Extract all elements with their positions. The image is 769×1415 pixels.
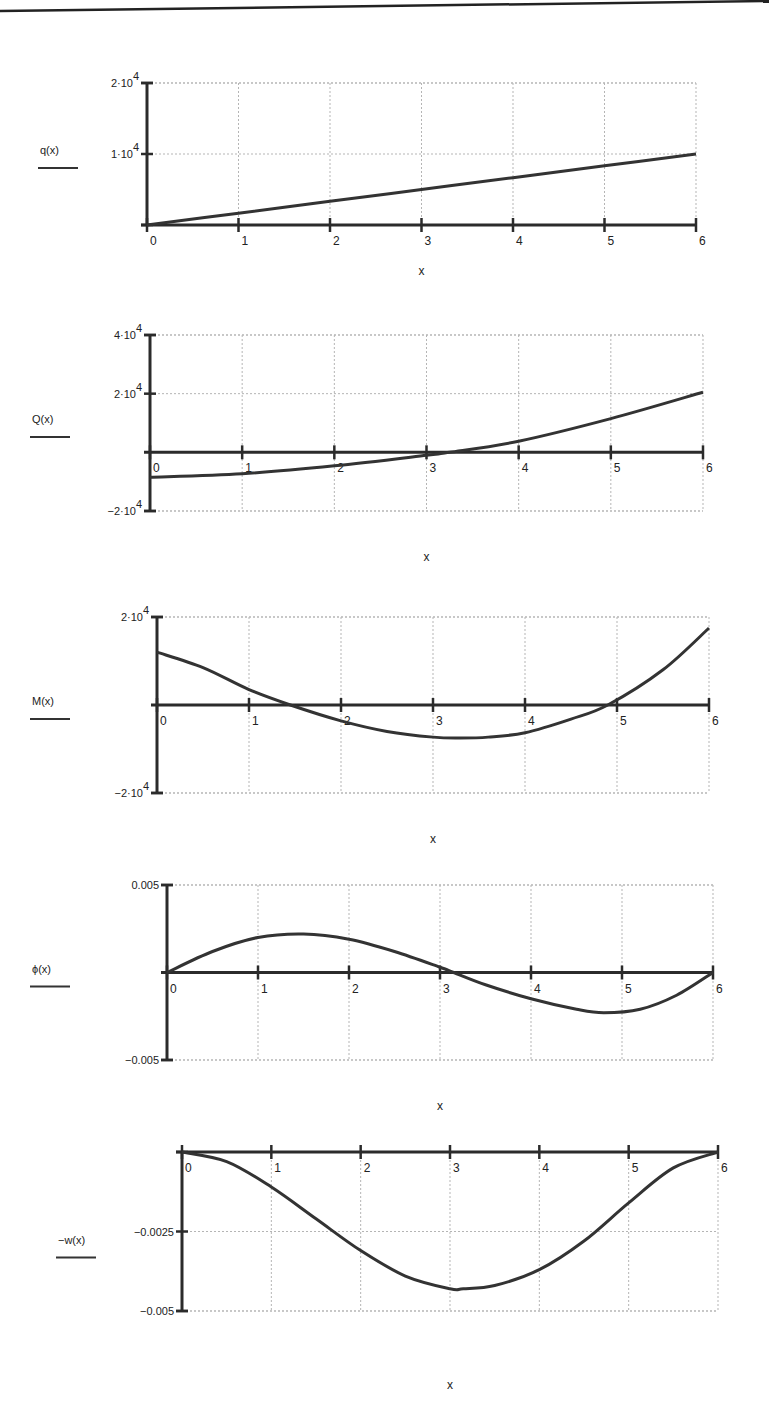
function-label: q(x) xyxy=(40,144,59,156)
x-tick-label: 4 xyxy=(516,234,523,248)
y-tick-exponent: 4 xyxy=(136,322,142,334)
x-tick-label: 3 xyxy=(430,461,437,475)
x-tick-label: 1 xyxy=(274,1161,281,1175)
function-label: −w(x) xyxy=(58,1234,85,1246)
x-tick-label: 4 xyxy=(522,461,529,475)
x-tick-label: 1 xyxy=(242,234,249,248)
y-tick-exponent: 4 xyxy=(136,381,142,393)
x-axis-label: x xyxy=(447,1378,453,1392)
x-tick-label: 2 xyxy=(364,1161,371,1175)
plots-svg: 01234562·1041·104q(x)x01234564·1042·104−… xyxy=(0,0,769,1415)
chart-phi: 01234560.005−0.005ϕ(x)x xyxy=(30,879,723,1113)
x-tick-label: 3 xyxy=(453,1161,460,1175)
y-tick-exponent: 4 xyxy=(143,604,149,616)
function-label: ϕ(x) xyxy=(32,963,51,975)
x-tick-label: 0 xyxy=(150,234,157,248)
x-tick-label: 0 xyxy=(153,461,160,475)
y-tick-label: −0.005 xyxy=(140,1305,174,1317)
y-tick-exponent: 4 xyxy=(136,498,142,510)
x-tick-label: 2 xyxy=(352,982,359,996)
y-tick-label: 4·10 xyxy=(114,329,136,341)
x-tick-label: 4 xyxy=(528,714,535,728)
function-label: Q(x) xyxy=(32,413,53,425)
x-tick-label: 6 xyxy=(721,1161,728,1175)
x-tick-label: 3 xyxy=(425,234,432,248)
x-tick-label: 3 xyxy=(436,714,443,728)
x-axis-label: x xyxy=(419,264,425,278)
grid xyxy=(150,335,703,511)
chart-w: 0123456−0.0025−0.005−w(x)x xyxy=(56,1145,728,1392)
grid xyxy=(147,83,696,225)
x-axis-label: x xyxy=(424,550,430,564)
x-tick-label: 5 xyxy=(620,714,627,728)
x-tick-label: 6 xyxy=(699,234,706,248)
chart-q: 01234562·1041·104q(x)x xyxy=(38,70,706,278)
y-tick-label: 0.005 xyxy=(131,879,159,891)
x-tick-label: 0 xyxy=(160,714,167,728)
x-tick-label: 3 xyxy=(443,982,450,996)
x-tick-label: 4 xyxy=(542,1161,549,1175)
y-tick-exponent: 4 xyxy=(143,780,149,792)
x-tick-label: 1 xyxy=(252,714,259,728)
grid xyxy=(182,1152,718,1311)
x-tick-label: 5 xyxy=(614,461,621,475)
x-axis-label: x xyxy=(437,1099,443,1113)
x-tick-label: 4 xyxy=(534,982,541,996)
x-tick-label: 5 xyxy=(632,1161,639,1175)
x-tick-label: 0 xyxy=(170,982,177,996)
x-tick-label: 0 xyxy=(185,1161,192,1175)
x-axis-label: x xyxy=(430,832,436,846)
y-tick-label: 2·10 xyxy=(121,611,143,623)
x-tick-label: 2 xyxy=(333,234,340,248)
y-tick-exponent: 4 xyxy=(133,141,139,153)
y-tick-label: 1·10 xyxy=(111,148,133,160)
x-tick-label: 1 xyxy=(261,982,268,996)
x-tick-label: 5 xyxy=(608,234,615,248)
y-tick-exponent: 4 xyxy=(133,70,139,82)
y-tick-label: −2·10 xyxy=(108,505,136,517)
chart-M: 01234562·104−2·104M(x)x xyxy=(30,604,719,846)
x-tick-label: 6 xyxy=(716,982,723,996)
function-label: M(x) xyxy=(32,695,54,707)
y-tick-label: −0.0025 xyxy=(134,1226,174,1238)
x-tick-label: 5 xyxy=(625,982,632,996)
chart-Q: 01234564·1042·104−2·104Q(x)x xyxy=(30,322,713,564)
y-tick-label: 2·10 xyxy=(111,77,133,89)
x-tick-label: 6 xyxy=(712,714,719,728)
y-tick-label: −2·10 xyxy=(115,787,143,799)
y-tick-label: −0.005 xyxy=(125,1054,159,1066)
y-tick-label: 2·10 xyxy=(114,388,136,400)
x-tick-label: 6 xyxy=(706,461,713,475)
